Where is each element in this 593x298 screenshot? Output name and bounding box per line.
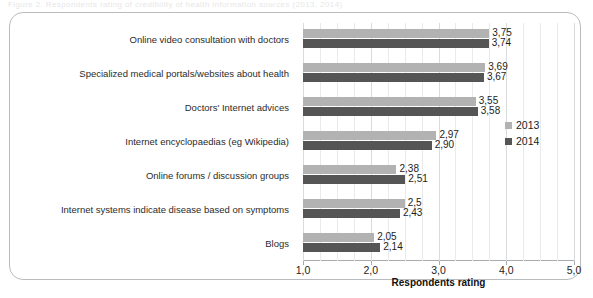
bar-value-label: 3,74 bbox=[492, 38, 511, 48]
bar-value-label: 2,90 bbox=[435, 140, 454, 150]
category-axis: Online video consultation with doctorsSp… bbox=[14, 23, 295, 261]
bar-2014 bbox=[303, 243, 380, 252]
x-tick-label: 2,0 bbox=[363, 264, 378, 277]
category-label: Online forums / discussion groups bbox=[13, 170, 289, 181]
category-label: Specialized medical portals/websites abo… bbox=[13, 68, 289, 79]
legend-label: 2014 bbox=[516, 135, 539, 147]
bar-group: 2,382,51 bbox=[303, 165, 574, 187]
bar-value-label: 2,14 bbox=[383, 242, 402, 252]
category-label: Blogs bbox=[13, 238, 289, 249]
bar-group: 3,693,67 bbox=[303, 63, 574, 85]
bar-2013 bbox=[303, 233, 374, 242]
legend-label: 2013 bbox=[516, 119, 539, 131]
category-label: Online video consultation with doctors bbox=[13, 34, 289, 45]
bar-2014 bbox=[303, 73, 484, 82]
bar-2013 bbox=[303, 165, 396, 174]
bar-2013 bbox=[303, 29, 489, 38]
x-tick-label: 4,0 bbox=[499, 264, 514, 277]
figure-frame: Online video consultation with doctorsSp… bbox=[9, 12, 581, 280]
bar-value-label: 2,43 bbox=[403, 208, 422, 218]
legend-swatch-icon bbox=[505, 138, 512, 145]
bar-2013 bbox=[303, 131, 436, 140]
bar-2014 bbox=[303, 107, 478, 116]
x-tick-label: 1,0 bbox=[296, 264, 311, 277]
bar-2013 bbox=[303, 63, 485, 72]
category-label: Internet systems indicate disease based … bbox=[13, 204, 289, 215]
bar-2014 bbox=[303, 39, 489, 48]
category-label: Internet encyclopaedias (eg Wikipedia) bbox=[13, 136, 289, 147]
legend-item-2013: 2013 bbox=[505, 117, 575, 133]
bar-value-label: 3,67 bbox=[487, 72, 506, 82]
bar-2013 bbox=[303, 97, 476, 106]
bar-group: 3,753,74 bbox=[303, 29, 574, 51]
legend-swatch-icon bbox=[505, 122, 512, 129]
bar-2014 bbox=[303, 141, 432, 150]
bar-chart: Online video consultation with doctorsSp… bbox=[10, 13, 582, 281]
bar-2014 bbox=[303, 209, 400, 218]
x-tick-label: 5,0 bbox=[567, 264, 582, 277]
x-axis-tick-labels: 1,02,03,04,05,0 bbox=[303, 264, 574, 278]
bar-2014 bbox=[303, 175, 405, 184]
x-tick-label: 3,0 bbox=[431, 264, 446, 277]
bar-group: 3,553,58 bbox=[303, 97, 574, 119]
legend-item-2014: 2014 bbox=[505, 133, 575, 149]
category-label: Doctors' Internet advices bbox=[13, 102, 289, 113]
bar-group: 2,52,43 bbox=[303, 199, 574, 221]
x-axis-title: Respondents rating bbox=[303, 277, 574, 288]
scanned-caption-sliver: Figure 2. Respondents rating of credibil… bbox=[8, 0, 568, 9]
bar-value-label: 2,51 bbox=[408, 174, 427, 184]
bar-value-label: 3,58 bbox=[481, 106, 500, 116]
bar-group: 2,052,14 bbox=[303, 233, 574, 255]
chart-legend: 20132014 bbox=[505, 117, 575, 149]
bar-2013 bbox=[303, 199, 405, 208]
